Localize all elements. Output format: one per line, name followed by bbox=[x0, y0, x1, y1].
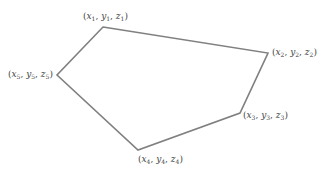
vertex-label-4: (x4, y4, z4) bbox=[138, 155, 183, 165]
vertex-label-2: (x2, y2, z2) bbox=[272, 48, 317, 58]
vertex-label-3: (x3, y3, z3) bbox=[243, 111, 288, 121]
vertex-label-5: (x5, y5, z5) bbox=[8, 70, 53, 80]
polygon-diagram bbox=[0, 0, 329, 177]
vertex-label-1: (x1, y1, z1) bbox=[83, 12, 128, 22]
pentagon-outline bbox=[57, 27, 268, 150]
